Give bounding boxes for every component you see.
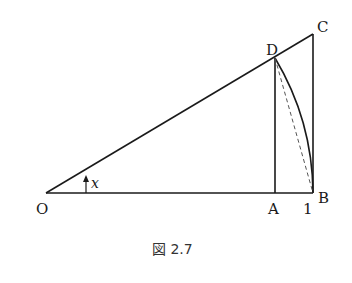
tick-label-1: 1: [303, 200, 313, 218]
figure-caption: 図 2.7: [152, 241, 193, 257]
point-label-C: C: [317, 18, 328, 36]
angle-label-x: x: [91, 175, 99, 191]
chord-DB-dashed: [275, 58, 313, 193]
point-label-D: D: [266, 41, 278, 59]
angle-arrowhead-icon: [83, 175, 89, 182]
point-label-B: B: [318, 189, 329, 207]
geometry-figure: x O A 1 B C D 図 2.7: [0, 0, 352, 283]
point-label-O: O: [36, 200, 48, 218]
point-label-A: A: [267, 200, 279, 218]
